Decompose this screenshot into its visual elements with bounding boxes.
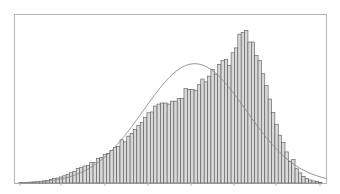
histogram-bar <box>309 180 312 183</box>
histogram-bar <box>144 118 147 183</box>
histogram-bar <box>120 140 123 183</box>
histogram-bar <box>191 90 194 183</box>
histogram-bar <box>171 101 174 183</box>
histogram-chart <box>0 0 340 194</box>
histogram-bar <box>80 168 83 183</box>
histogram-bar <box>123 142 126 183</box>
histogram-bar <box>245 30 248 183</box>
histogram-bar <box>302 176 305 183</box>
histogram-bar <box>157 104 160 183</box>
histogram-bar <box>113 148 116 183</box>
histogram-bar <box>275 124 278 183</box>
histogram-bar <box>154 106 157 183</box>
histogram-bar <box>150 112 153 183</box>
histogram-bar <box>184 89 187 183</box>
histogram-bar <box>83 166 86 183</box>
histogram-bar <box>133 129 136 183</box>
histogram-bar <box>137 126 140 183</box>
histogram-bar <box>251 42 254 183</box>
histogram-bar <box>53 179 56 183</box>
histogram-bar <box>56 178 59 183</box>
histogram-bar <box>282 143 285 183</box>
histogram-bar <box>248 42 251 183</box>
histogram-bar <box>272 112 275 183</box>
histogram-bar <box>63 176 66 183</box>
histogram-bar <box>174 101 177 183</box>
histogram-bar <box>258 60 261 183</box>
histogram-bar <box>181 98 184 183</box>
histogram-bar <box>160 103 163 183</box>
histogram-bar <box>140 123 143 183</box>
histogram-bar <box>59 177 62 183</box>
histogram-bar <box>147 113 150 183</box>
histogram-bar <box>70 173 73 183</box>
histogram-bar <box>167 104 170 183</box>
histogram-bar <box>107 153 110 183</box>
histogram-bar <box>234 48 237 183</box>
histogram-bar <box>305 178 308 183</box>
histogram-bar <box>238 34 241 183</box>
histogram-bar <box>127 136 130 183</box>
histogram-bar <box>319 182 322 183</box>
histogram-bar <box>197 85 200 183</box>
histogram-bar <box>211 69 214 183</box>
histogram-bar <box>265 86 268 183</box>
histogram-bar <box>66 174 69 183</box>
histogram-bar <box>177 98 180 183</box>
histogram-bar <box>164 103 167 183</box>
histogram-bar <box>110 150 113 183</box>
histogram-bar <box>255 56 258 183</box>
histogram-bar <box>76 169 79 183</box>
histogram-bar <box>285 152 288 183</box>
histogram-bar <box>73 171 76 183</box>
histogram-bar <box>117 147 120 183</box>
histogram-bar <box>204 82 207 183</box>
histogram-bar <box>201 79 204 183</box>
histogram-plot <box>0 0 340 194</box>
histogram-bar <box>295 169 298 183</box>
histogram-bar <box>312 181 315 183</box>
histogram-bar <box>187 90 190 183</box>
histogram-bar <box>130 133 133 183</box>
histogram-bar <box>214 74 217 183</box>
histogram-bar <box>194 91 197 183</box>
histogram-bar <box>298 173 301 183</box>
histogram-bar <box>288 161 291 183</box>
histogram-bar <box>228 65 231 183</box>
histogram-bar <box>218 64 221 183</box>
histogram-bar <box>278 135 281 183</box>
histogram-bar <box>103 154 106 183</box>
histogram-bar <box>224 60 227 183</box>
histogram-bar <box>315 182 318 183</box>
histogram-bar <box>231 53 234 183</box>
histogram-bar <box>90 163 93 183</box>
histogram-bar <box>261 74 264 183</box>
histogram-bar <box>208 76 211 183</box>
